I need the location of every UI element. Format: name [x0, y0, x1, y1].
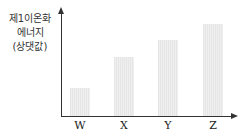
y-axis-arrow-icon [58, 7, 64, 14]
x-tick-z: Z [198, 119, 228, 132]
y-axis-label-line-3: (상댓값) [0, 40, 60, 54]
bar-z [203, 24, 223, 116]
bar-x [114, 57, 134, 116]
x-axis [61, 116, 233, 117]
x-axis-arrow-icon [231, 113, 238, 119]
x-tick-w: W [65, 119, 95, 132]
x-tick-y: Y [153, 119, 183, 132]
y-axis-label-line-2: 에너지 [0, 26, 60, 40]
y-axis-label-line-1: 제1이온화 [0, 12, 60, 26]
bar-w [70, 88, 90, 116]
y-axis-label: 제1이온화 에너지 (상댓값) [0, 12, 60, 54]
bar-y [158, 40, 178, 116]
x-tick-x: X [109, 119, 139, 132]
y-axis [61, 12, 62, 117]
